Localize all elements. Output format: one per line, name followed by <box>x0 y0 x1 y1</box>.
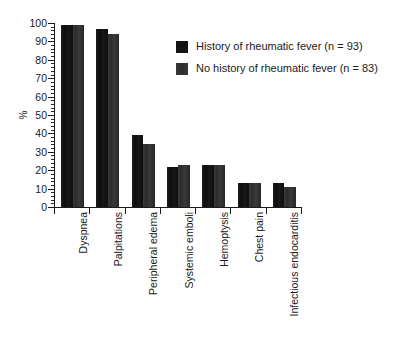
bar <box>238 183 250 207</box>
y-tick-label: 100 <box>23 18 47 28</box>
legend-label: No history of rheumatic fever (n = 83) <box>196 62 378 75</box>
x-tick-label: Systemic emboli <box>183 212 195 342</box>
y-tick-label: 30 <box>23 147 47 157</box>
bar-chart-figure: % 0102030405060708090100 DyspneaPalpitat… <box>0 0 406 347</box>
legend-label: History of rheumatic fever (n = 93) <box>196 40 363 53</box>
y-tick-label: 0 <box>23 202 47 212</box>
bar <box>178 165 190 207</box>
legend-swatch-icon <box>176 41 188 53</box>
legend-swatch-icon <box>176 63 188 75</box>
bar <box>214 165 226 207</box>
y-tick-label: 50 <box>23 110 47 120</box>
y-tick-label: 20 <box>23 165 47 175</box>
y-tick-label: 10 <box>23 184 47 194</box>
x-tick-label: Dyspnea <box>77 212 89 342</box>
y-tick-label: 60 <box>23 92 47 102</box>
y-tick-label: 40 <box>23 128 47 138</box>
bar-group <box>55 23 90 207</box>
legend-item[interactable]: No history of rheumatic fever (n = 83) <box>176 62 402 75</box>
bar <box>96 29 108 207</box>
y-axis-ticks: 0102030405060708090100 <box>28 17 54 213</box>
legend-item[interactable]: History of rheumatic fever (n = 93) <box>176 40 402 53</box>
y-tick-label: 70 <box>23 73 47 83</box>
bar <box>284 187 296 207</box>
bar <box>202 165 214 207</box>
y-tick-label: 80 <box>23 55 47 65</box>
x-axis-labels: DyspneaPalpitationsPeripheral edemaSyste… <box>54 212 304 347</box>
x-tick-label: Infectious endocarditis <box>288 212 300 342</box>
bar <box>273 183 285 207</box>
bar <box>73 25 85 207</box>
bar <box>61 25 73 207</box>
y-tick-label: 90 <box>23 36 47 46</box>
bar <box>167 167 179 207</box>
bar-group <box>126 23 161 207</box>
x-tick-label: Chest pain <box>253 212 265 342</box>
bar <box>132 135 144 207</box>
bar-group <box>90 23 125 207</box>
x-tick-label: Hemoptysis <box>218 212 230 342</box>
x-tick-label: Peripheral edema <box>147 212 159 342</box>
bar <box>108 34 120 207</box>
chart-legend: History of rheumatic fever (n = 93)No hi… <box>176 40 402 84</box>
bar <box>143 144 155 207</box>
x-tick-label: Palpitations <box>112 212 124 342</box>
bar <box>249 183 261 207</box>
